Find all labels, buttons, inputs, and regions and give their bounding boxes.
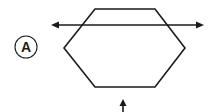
vertical-arrow <box>120 99 127 112</box>
arrowhead-left-icon <box>51 22 59 29</box>
hexagon-shape <box>64 9 185 87</box>
diagram-canvas: A <box>0 0 214 112</box>
double-arrow-line <box>51 22 204 29</box>
arrowhead-right-icon <box>196 22 204 29</box>
label-badge: A <box>15 36 37 58</box>
label-text: A <box>21 39 31 55</box>
arrowhead-up-icon <box>120 99 127 106</box>
